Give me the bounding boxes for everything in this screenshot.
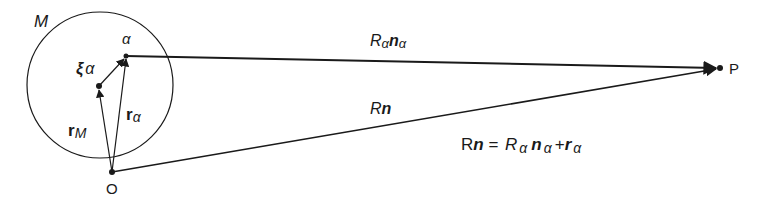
equation: Rn = Rαnα+rα [461,135,582,156]
eq-r-vec: r [565,135,573,154]
eq-n-sub: α [544,140,553,156]
label-body-m: M [34,12,49,31]
eq-r-vec-sub: α [573,140,582,156]
xi-symbol: ξ [76,60,84,78]
eq-equals: = [484,135,503,154]
eq-lhs-n: n [473,135,483,154]
xi-subscript: α [85,60,95,77]
label-xi-alpha: ξα [76,60,95,78]
label-r-m: rM [68,121,87,141]
r-m-subscript: M [75,125,87,141]
label-r-alpha-n-alpha: Rαnα [370,32,407,51]
r-alpha-r: R [370,32,382,49]
vector-r-alpha-n-alpha [126,56,716,68]
label-rn: Rn [370,100,392,117]
label-point-p: P [729,60,739,77]
r-alpha-subscript: α [133,109,142,125]
vector-rn [112,69,716,172]
eq-lhs-r: R [461,135,473,154]
eq-plus: + [555,135,565,154]
eq-r: R [505,135,517,154]
r-alpha-n: n [389,32,399,49]
label-particle-alpha: α [122,30,131,47]
diagram-canvas: M α ξα rM rα O P Rαnα Rn Rn = Rαnα+rα [0,0,761,204]
label-origin: O [106,180,118,197]
label-r-alpha: rα [126,105,142,125]
r-alpha-sub-2: α [399,36,407,51]
rn-n: n [382,100,392,117]
rn-r: R [370,100,382,117]
vector-r-m [99,90,112,172]
eq-r-sub: α [519,140,528,156]
vector-xi-alpha [99,59,124,86]
point-p-dot [717,65,723,71]
eq-n: n [531,135,541,154]
